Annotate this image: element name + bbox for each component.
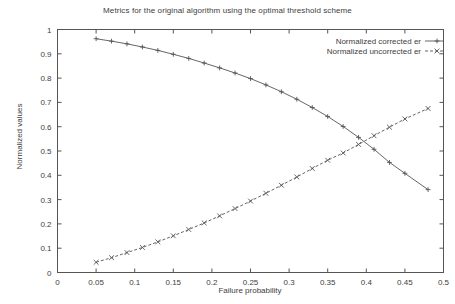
cross-marker — [387, 125, 392, 130]
x-tick-label: 0.15 — [166, 278, 182, 287]
x-tick-label: 0.1 — [129, 278, 141, 287]
cross-marker — [264, 191, 269, 196]
legend-label: Normalized corrected er — [336, 37, 422, 46]
x-tick-label: 0.35 — [320, 278, 336, 287]
cross-marker — [140, 245, 145, 250]
cross-marker — [294, 175, 299, 180]
plus-marker — [233, 71, 238, 76]
x-tick-label: 0 — [55, 278, 60, 287]
plus-marker — [294, 97, 299, 102]
plus-marker — [435, 39, 440, 44]
plus-marker — [171, 52, 176, 57]
cross-marker — [233, 206, 238, 211]
plus-marker — [155, 48, 160, 53]
y-tick-label: 0.5 — [40, 147, 52, 156]
x-tick-label: 0.05 — [88, 278, 104, 287]
series-line — [96, 108, 428, 262]
x-tick-label: 0.5 — [438, 278, 450, 287]
x-tick-label: 0.3 — [284, 278, 296, 287]
x-tick-label: 0.45 — [397, 278, 413, 287]
cross-marker — [403, 117, 408, 122]
cross-marker — [279, 183, 284, 188]
cross-marker — [109, 255, 114, 260]
x-tick-label: 0.25 — [243, 278, 259, 287]
y-tick-label: 0 — [47, 269, 52, 278]
cross-marker — [217, 213, 222, 218]
cross-marker — [94, 260, 99, 265]
cross-marker — [186, 227, 191, 232]
y-tick-label: 0.4 — [40, 171, 52, 180]
x-tick-label: 0.2 — [206, 278, 218, 287]
legend-label: Normalized uncorrected er — [327, 47, 422, 56]
cross-marker — [171, 233, 176, 238]
plus-marker — [109, 39, 114, 44]
cross-marker — [341, 151, 346, 156]
y-tick-label: 0.1 — [40, 244, 52, 253]
plus-marker — [186, 56, 191, 61]
plus-marker — [279, 89, 284, 94]
y-tick-label: 0.8 — [40, 74, 52, 83]
axis-tick-labels: 00.050.10.150.20.250.30.350.40.450.500.1… — [40, 26, 449, 287]
cross-marker — [125, 250, 130, 255]
data-series — [94, 106, 431, 265]
y-tick-label: 0.3 — [40, 196, 52, 205]
axis-ticks — [58, 30, 444, 273]
y-tick-label: 0.9 — [40, 50, 52, 59]
axis-frame — [58, 30, 444, 273]
data-series — [94, 36, 431, 192]
y-tick-label: 0.2 — [40, 220, 52, 229]
y-tick-label: 0.6 — [40, 123, 52, 132]
chart-figure: Metrics for the original algorithm using… — [0, 0, 455, 304]
series-line — [96, 39, 428, 190]
plus-marker — [125, 41, 130, 46]
cross-marker — [325, 158, 330, 163]
cross-marker — [310, 166, 315, 171]
x-tick-label: 0.4 — [361, 278, 373, 287]
plus-marker — [325, 114, 330, 119]
chart-legend: Normalized corrected erNormalized uncorr… — [327, 37, 449, 56]
cross-marker — [155, 239, 160, 244]
plus-marker — [202, 61, 207, 66]
plus-marker — [264, 83, 269, 88]
y-tick-label: 0.7 — [40, 98, 52, 107]
y-tick-label: 1 — [47, 26, 52, 35]
plus-marker — [248, 76, 253, 81]
cross-marker — [426, 106, 431, 111]
plus-marker — [310, 105, 315, 110]
cross-marker — [202, 221, 207, 226]
plot-area: 00.050.10.150.20.250.30.350.40.450.500.1… — [0, 0, 455, 304]
plus-marker — [217, 65, 222, 70]
cross-marker — [372, 133, 377, 138]
plus-marker — [94, 36, 99, 41]
plus-marker — [140, 45, 145, 50]
cross-marker — [356, 142, 361, 147]
data-series-group — [94, 36, 431, 264]
cross-marker — [248, 199, 253, 204]
